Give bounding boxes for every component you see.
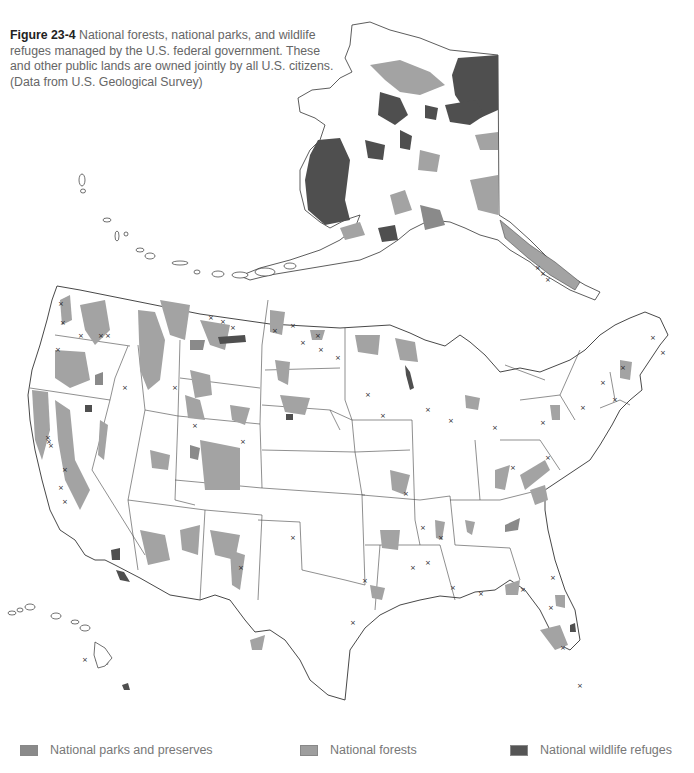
svg-text:×: ×: [492, 424, 498, 432]
svg-text:×: ×: [600, 379, 606, 387]
svg-text:×: ×: [300, 339, 306, 347]
svg-text:×: ×: [650, 334, 656, 342]
national-forests-swatch: [300, 745, 318, 756]
svg-text:×: ×: [62, 466, 68, 474]
legend-item-national-forests: National forests: [300, 743, 417, 757]
svg-text:×: ×: [560, 644, 566, 652]
svg-text:×: ×: [48, 442, 54, 450]
legend-label: National wildlife refuges: [540, 743, 672, 757]
svg-text:×: ×: [545, 454, 551, 462]
svg-text:×: ×: [362, 577, 368, 585]
legend-item-national-parks: National parks and preserves: [20, 743, 213, 757]
svg-text:×: ×: [122, 384, 128, 392]
svg-text:×: ×: [660, 349, 666, 357]
svg-text:×: ×: [98, 332, 104, 340]
svg-text:×: ×: [58, 300, 64, 308]
svg-text:×: ×: [420, 524, 426, 532]
svg-text:×: ×: [60, 319, 66, 327]
svg-text:×: ×: [55, 346, 61, 354]
svg-text:×: ×: [272, 327, 278, 335]
svg-text:×: ×: [450, 584, 456, 592]
svg-text:×: ×: [192, 422, 198, 430]
svg-text:×: ×: [365, 391, 371, 399]
svg-text:×: ×: [82, 656, 88, 664]
legend-label: National parks and preserves: [50, 743, 213, 757]
svg-text:×: ×: [540, 419, 546, 427]
svg-text:×: ×: [335, 354, 341, 362]
legend-label: National forests: [330, 743, 417, 757]
svg-text:×: ×: [620, 364, 626, 372]
map-legend: National parks and preserves National fo…: [0, 743, 694, 765]
svg-text:×: ×: [208, 314, 214, 322]
svg-text:×: ×: [438, 534, 444, 542]
svg-text:×: ×: [545, 276, 551, 284]
national-parks-swatch: [20, 745, 38, 756]
svg-text:×: ×: [230, 324, 236, 332]
svg-text:×: ×: [58, 484, 64, 492]
svg-text:×: ×: [240, 438, 246, 446]
svg-text:×: ×: [403, 490, 409, 498]
svg-text:×: ×: [62, 498, 68, 506]
svg-text:×: ×: [425, 406, 431, 414]
svg-text:×: ×: [548, 604, 554, 612]
hawaii: [8, 604, 112, 668]
contiguous-us: [28, 286, 668, 700]
svg-text:×: ×: [577, 682, 583, 690]
svg-text:×: ×: [425, 559, 431, 567]
svg-text:×: ×: [290, 534, 296, 542]
svg-text:×: ×: [105, 332, 111, 340]
svg-text:×: ×: [520, 586, 526, 594]
national-wildlife-refuges-swatch: [510, 745, 528, 756]
alaska: [240, 22, 600, 300]
svg-text:×: ×: [510, 464, 516, 472]
svg-text:×: ×: [448, 417, 454, 425]
svg-text:×: ×: [315, 332, 321, 340]
svg-text:×: ×: [78, 332, 84, 340]
us-public-lands-map: ×××× ×××× ×××× ×××× ×××× ×××× ×××× ×××× …: [0, 0, 694, 735]
svg-text:×: ×: [580, 404, 586, 412]
svg-text:×: ×: [380, 412, 386, 420]
svg-text:×: ×: [238, 564, 244, 572]
legend-item-national-wildlife-refuges: National wildlife refuges: [510, 743, 672, 757]
svg-text:×: ×: [612, 396, 618, 404]
svg-text:×: ×: [220, 318, 226, 326]
svg-text:×: ×: [172, 384, 178, 392]
svg-text:×: ×: [478, 590, 484, 598]
svg-text:×: ×: [290, 322, 296, 330]
aleutian-islands: [79, 174, 296, 278]
svg-text:×: ×: [318, 346, 324, 354]
svg-text:×: ×: [410, 564, 416, 572]
svg-text:×: ×: [550, 574, 556, 582]
svg-text:×: ×: [350, 619, 356, 627]
